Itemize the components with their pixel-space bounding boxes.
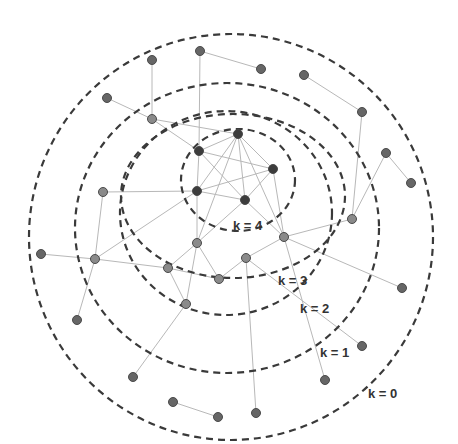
node-o8: [407, 179, 416, 188]
node-i2: [280, 233, 289, 242]
edge: [200, 51, 261, 69]
node-i6: [182, 300, 191, 309]
edge: [246, 237, 284, 258]
shell-label-k2: k = 2: [300, 301, 329, 316]
edge: [77, 259, 95, 320]
node-o6: [358, 108, 367, 117]
shell-boundary-0: [29, 34, 433, 440]
node-s1: [148, 115, 157, 124]
node-i5: [215, 275, 224, 284]
edge: [199, 151, 273, 169]
node-s2: [99, 188, 108, 197]
edge: [238, 134, 245, 200]
shell-label-k0: k = 0: [368, 386, 397, 401]
edge: [197, 151, 199, 191]
node-i4: [164, 264, 173, 273]
node-o1: [196, 47, 205, 56]
edge: [246, 258, 256, 413]
edge: [168, 243, 197, 268]
node-o2: [148, 56, 157, 65]
edge: [386, 153, 411, 183]
edge: [273, 169, 284, 237]
node-s3: [91, 255, 100, 264]
edge: [304, 75, 362, 112]
node-o14: [129, 373, 138, 382]
edge: [219, 258, 246, 279]
edge: [41, 254, 95, 259]
node-o12: [358, 342, 367, 351]
node-o11: [398, 284, 407, 293]
node-c2: [195, 147, 204, 156]
shell-label-k3: k = 3: [278, 273, 307, 288]
node-c3: [269, 165, 278, 174]
node-c5: [241, 196, 250, 205]
edge: [168, 268, 186, 304]
edge: [173, 402, 218, 417]
node-o17: [214, 413, 223, 422]
node-o5: [300, 71, 309, 80]
node-i3: [242, 254, 251, 263]
node-o7: [382, 149, 391, 158]
node-o9: [37, 250, 46, 259]
edge: [238, 134, 273, 169]
node-o15: [252, 409, 261, 418]
edge: [245, 169, 273, 200]
shell-label-k1: k = 1: [320, 345, 349, 360]
k-core-diagram: k = 0k = 1k = 2k = 3k = 4: [0, 0, 458, 444]
node-c4: [193, 187, 202, 196]
edge: [95, 192, 103, 259]
node-i1: [193, 239, 202, 248]
edges-layer: [41, 51, 411, 417]
shell-labels-layer: k = 0k = 1k = 2k = 3k = 4: [233, 218, 397, 401]
node-o10: [73, 316, 82, 325]
shells-layer: [29, 34, 433, 440]
node-o13: [321, 376, 330, 385]
shell-boundary-3: [181, 129, 295, 231]
edge: [284, 219, 352, 237]
edge: [107, 98, 152, 119]
node-o16: [169, 398, 178, 407]
node-c1: [234, 130, 243, 139]
node-o3: [103, 94, 112, 103]
shell-boundary-3: [121, 114, 345, 278]
shell-boundary-1: [75, 83, 379, 373]
shell-label-k4: k = 4: [233, 218, 263, 233]
node-o4: [257, 65, 266, 74]
node-s4: [348, 215, 357, 224]
network-graph: k = 0k = 1k = 2k = 3k = 4: [0, 0, 458, 444]
nodes-layer: [37, 47, 416, 422]
edge: [199, 51, 200, 151]
